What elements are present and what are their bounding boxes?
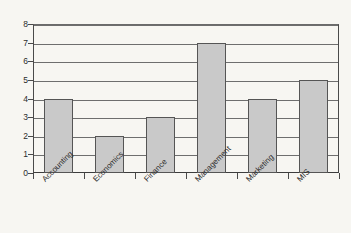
y-axis-tick-label: 6: [6, 57, 28, 66]
y-axis: 012345678: [0, 24, 28, 173]
bar-chart: 012345678 AccountingEconomicsFinanceMana…: [0, 0, 351, 233]
bar: [299, 80, 329, 173]
y-axis-tick-label: 0: [6, 169, 28, 178]
y-axis-tick-label: 4: [6, 94, 28, 103]
y-axis-tick-label: 5: [6, 76, 28, 85]
y-axis-tick-label: 1: [6, 150, 28, 159]
x-axis-tick-mark: [339, 173, 340, 179]
y-axis-tick-label: 2: [6, 132, 28, 141]
y-axis-tick-label: 8: [6, 20, 28, 29]
x-axis-labels: AccountingEconomicsFinanceManagementMark…: [33, 178, 339, 233]
y-axis-tick-label: 7: [6, 38, 28, 47]
bars-layer: [33, 24, 339, 173]
y-axis-tick-label: 3: [6, 113, 28, 122]
